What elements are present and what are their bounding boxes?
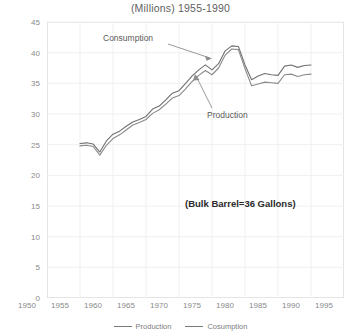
annotation-consumption: Consumption [103, 33, 153, 43]
annotation-production: Production [207, 110, 248, 120]
legend-label: Production [136, 322, 172, 331]
legend-item[interactable]: Production [114, 322, 172, 331]
data-series-group [80, 46, 311, 155]
annotation-leader-lines [168, 44, 212, 108]
annotation-bulk-barrel: (Bulk Barrel=36 Gallons) [185, 198, 296, 209]
series-line [80, 46, 311, 152]
legend-swatch-icon [114, 326, 132, 327]
series-line [80, 49, 311, 155]
legend-item[interactable]: Cosumption [185, 322, 247, 331]
legend-label: Cosumption [207, 322, 247, 331]
chart-legend: ProductionCosumption [0, 322, 361, 331]
chart-container: (Millions) 1955-1990 0510152025303540451… [0, 0, 361, 336]
chart-svg [0, 0, 361, 336]
legend-swatch-icon [185, 326, 203, 327]
gridlines [47, 22, 344, 298]
